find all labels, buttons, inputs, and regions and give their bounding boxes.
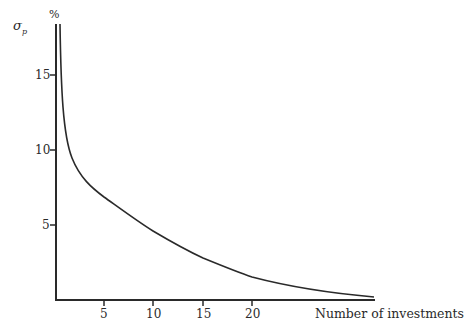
y-tick-label-15: 15 [35, 69, 50, 81]
y-axis-sigma: σ [13, 18, 22, 33]
y-axis-symbol: σp [13, 20, 27, 38]
y-axis-unit: % [49, 9, 59, 21]
x-tick-label-20: 20 [245, 308, 260, 320]
risk-curve [60, 24, 374, 297]
x-axis-title: Number of investments [315, 308, 464, 320]
y-axis-subscript: p [22, 27, 27, 36]
y-tick-label-10: 10 [35, 144, 50, 156]
x-tick-label-5: 5 [100, 308, 108, 320]
x-tick-label-10: 10 [146, 308, 161, 320]
y-tick-label-5: 5 [42, 219, 50, 231]
x-tick-label-15: 15 [196, 308, 211, 320]
